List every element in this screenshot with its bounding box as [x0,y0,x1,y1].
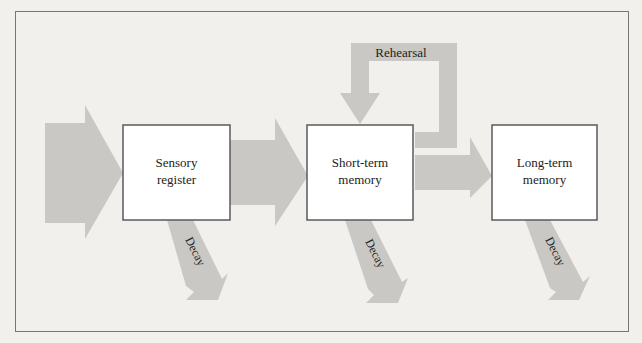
label-line: memory [492,171,597,188]
label-line: Long-term [492,154,597,171]
label-line: register [123,171,230,188]
label-line: memory [307,171,413,188]
label-line: Short-term [307,154,413,171]
rehearsal-label: Rehearsal [365,44,437,61]
long-term-memory-label: Long-term memory [492,154,597,188]
sensory-register-label: Sensory register [123,154,230,188]
short-term-memory-label: Short-term memory [307,154,413,188]
label-line: Sensory [123,154,230,171]
